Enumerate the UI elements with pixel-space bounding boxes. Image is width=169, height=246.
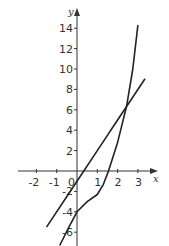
y-tick-label: 8 (66, 83, 73, 96)
x-tick-label: 2 (115, 176, 122, 189)
axes: xy (18, 6, 159, 246)
y-axis-label: y (67, 6, 74, 17)
ticks: -2-10123-6-4-22468101214 (28, 22, 141, 239)
x-tick-label: 3 (135, 176, 142, 189)
y-axis-arrow-icon (74, 8, 80, 16)
x-tick-label: 1 (94, 176, 101, 189)
x-tick-label: -1 (49, 176, 60, 189)
y-tick-label: 6 (66, 104, 73, 117)
y-tick-label: 14 (59, 22, 73, 35)
line-series (47, 79, 146, 227)
y-tick-label: 4 (66, 124, 73, 137)
x-axis-label: x (153, 173, 159, 184)
y-tick-label: 10 (59, 63, 73, 76)
chart: xy -2-10123-6-4-22468101214 (0, 0, 169, 246)
y-tick-label: -4 (62, 206, 73, 219)
y-tick-label: 2 (66, 145, 73, 158)
x-tick-label: -2 (28, 176, 39, 189)
y-tick-label: 12 (59, 43, 73, 56)
